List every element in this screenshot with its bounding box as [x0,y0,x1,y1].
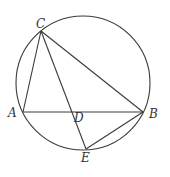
point-label-A: A [7,106,17,120]
circumscribed-circle [16,16,150,150]
geometry-diagram: A B C D E [0,0,170,177]
point-label-E: E [80,151,90,165]
point-label-C: C [36,17,45,31]
point-label-D: D [73,111,84,125]
segment-EB [86,112,143,149]
point-label-B: B [148,107,158,121]
segment-AC [23,31,41,112]
